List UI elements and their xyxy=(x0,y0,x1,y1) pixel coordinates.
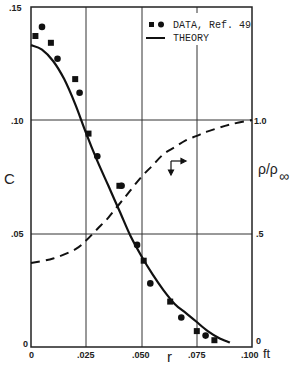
data-point-circle xyxy=(94,153,101,160)
x-axis-unit: ft xyxy=(263,346,271,361)
y2-tick: 0 xyxy=(256,336,261,346)
y2-axis-ticks: 1.0 .5 0 xyxy=(254,116,267,346)
data-point-square xyxy=(86,131,92,137)
x-tick: .050 xyxy=(132,350,150,360)
y2-axis-label: ρ/ρ xyxy=(258,161,278,177)
gridlines xyxy=(31,7,252,347)
legend-square-marker xyxy=(149,22,154,27)
data-point-square xyxy=(194,328,200,334)
data-point-circle xyxy=(54,55,61,62)
y-axis-label: C xyxy=(4,170,15,187)
axis-arrow-icon xyxy=(169,159,187,176)
x-axis-ticks: 0 .025 .050 .075 .100 xyxy=(29,350,259,360)
data-point-square xyxy=(167,299,173,305)
data-point-square xyxy=(48,40,54,46)
y-tick: .15 xyxy=(9,3,22,13)
data-squares xyxy=(32,33,217,343)
data-point-circle xyxy=(39,24,46,31)
data-point-circle xyxy=(202,332,209,339)
data-point-circle xyxy=(178,314,185,321)
legend-theory-label: THEORY xyxy=(173,33,209,44)
data-point-square xyxy=(72,76,78,82)
data-point-circle xyxy=(118,183,125,190)
chart: DATA, Ref. 49 THEORY .15 .10 .05 0 1.0 .… xyxy=(0,0,293,367)
y-tick: 0 xyxy=(23,339,28,349)
y2-tick: .5 xyxy=(256,229,264,239)
x-tick: 0 xyxy=(29,350,34,360)
legend-data-label: DATA, Ref. 49 xyxy=(173,20,251,31)
data-circles xyxy=(39,24,209,339)
data-point-square xyxy=(211,337,217,343)
data-point-circle xyxy=(147,280,154,287)
data-point-square xyxy=(32,33,38,39)
y-tick: .10 xyxy=(11,116,24,126)
x-tick: .100 xyxy=(241,350,259,360)
x-tick: .025 xyxy=(77,350,95,360)
legend-circle-marker xyxy=(158,22,164,28)
y2-tick: 1.0 xyxy=(254,116,267,126)
data-point-square xyxy=(141,258,147,264)
y-tick: .05 xyxy=(11,229,24,239)
data-point-circle xyxy=(134,242,141,249)
x-tick: .075 xyxy=(188,350,206,360)
theory-curve xyxy=(31,45,230,342)
x-axis-label: r xyxy=(167,348,172,365)
y2-axis-subscript: ∞ xyxy=(279,168,289,184)
data-point-circle xyxy=(76,90,83,97)
